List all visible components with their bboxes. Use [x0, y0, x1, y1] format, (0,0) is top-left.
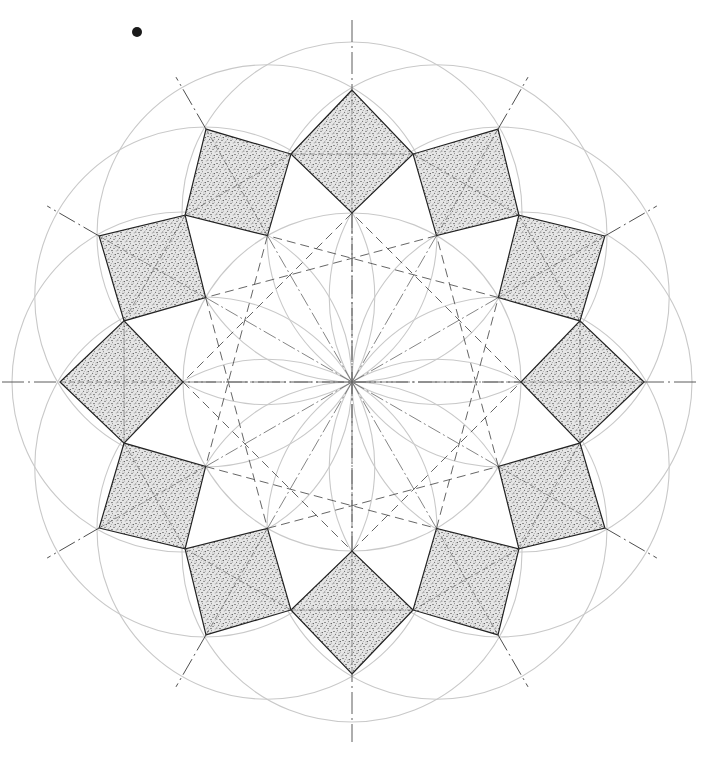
radial-extension-line [498, 635, 528, 687]
stippled-square [413, 129, 519, 236]
radial-extension-line [176, 635, 206, 687]
star-polygon-edge [206, 236, 437, 298]
stippled-square [413, 528, 519, 635]
ink-marks [132, 27, 142, 37]
rosette-drawing [0, 0, 725, 773]
radial-extension-line [605, 528, 657, 558]
radial-extension-line [176, 77, 206, 129]
star-polygon-edge [206, 236, 268, 467]
star-polygon-edge [206, 467, 437, 529]
star-polygon-edge [206, 298, 268, 529]
stippled-square [498, 443, 605, 549]
stippled-square [185, 528, 291, 635]
star-polygon-edge [268, 236, 499, 298]
star-polygon-edge [437, 298, 499, 529]
radial-extension-line [605, 206, 657, 236]
stippled-square [99, 215, 206, 321]
ink-spot [132, 27, 142, 37]
radial-extension-line [47, 206, 99, 236]
stippled-square [99, 443, 206, 549]
construction-lines [183, 213, 521, 551]
stippled-square [498, 215, 605, 321]
radial-extension-line [47, 528, 99, 558]
stippled-square [185, 129, 291, 236]
star-polygon-edge [437, 236, 499, 467]
star-polygon-edge [268, 467, 499, 529]
radial-extension-line [498, 77, 528, 129]
